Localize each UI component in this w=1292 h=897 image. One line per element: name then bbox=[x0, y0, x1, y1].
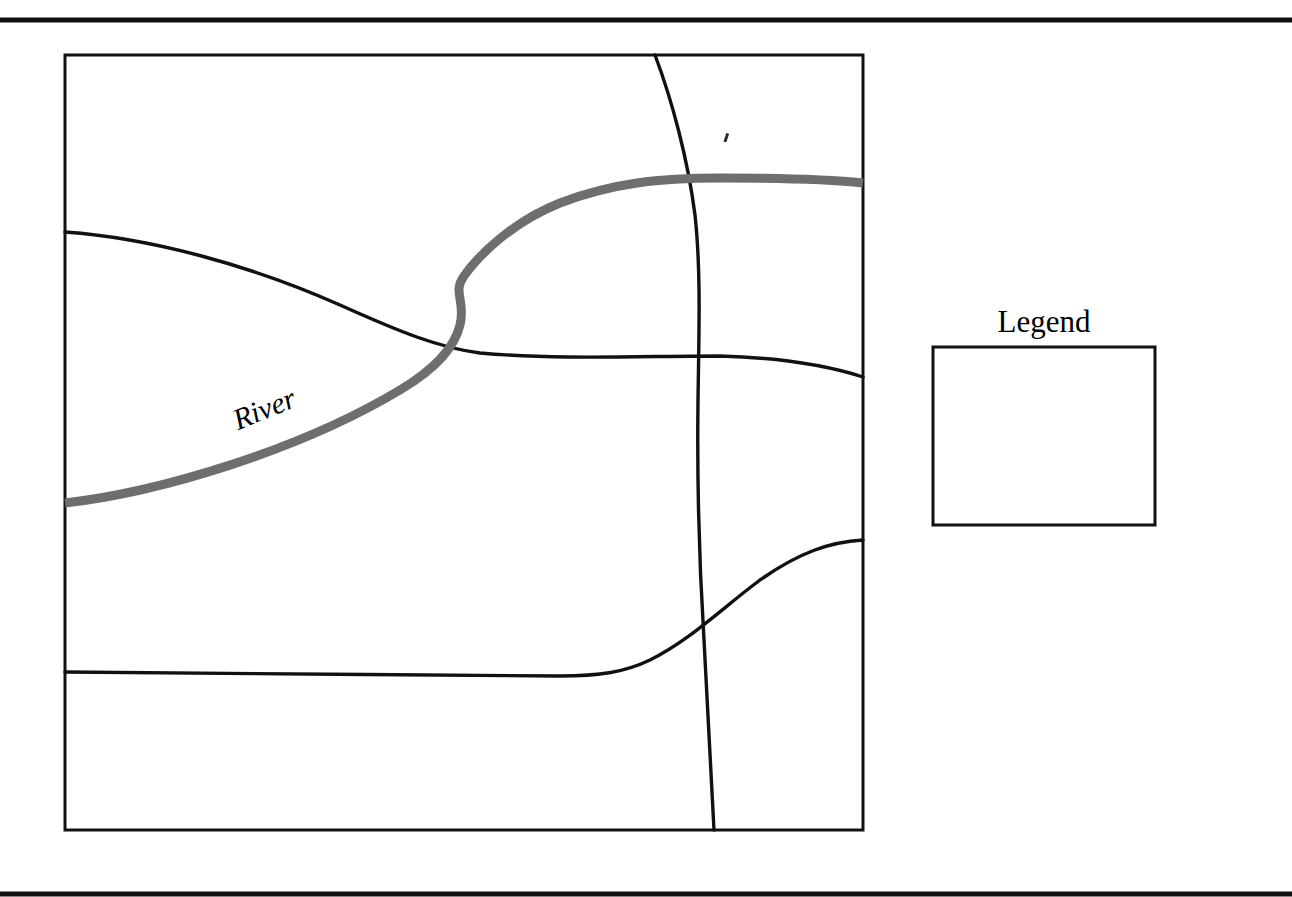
map-figure: River Legend bbox=[0, 0, 1292, 897]
map-frame bbox=[65, 55, 863, 830]
legend-title: Legend bbox=[998, 304, 1091, 339]
legend-box bbox=[933, 347, 1155, 525]
figure-canvas: River Legend bbox=[0, 0, 1292, 897]
